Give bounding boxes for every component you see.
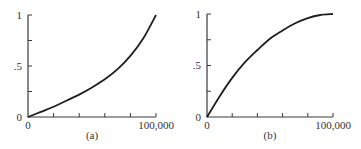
x-tick-label-0: 0 — [25, 119, 31, 131]
y-tick-label-0: 0 — [17, 111, 23, 123]
figure: 1 .5 0 0 100,000 (a) 1 .5 0 0 100,000 (b… — [0, 0, 361, 149]
x-tick-label-max: 100,000 — [315, 119, 351, 131]
y-tick-label-half: .5 — [193, 59, 202, 71]
y-tick-label-1: 1 — [17, 9, 23, 21]
panel-caption: (b) — [264, 129, 277, 142]
y-axis — [28, 15, 156, 117]
x-tick-label-max: 100,000 — [138, 119, 174, 131]
y-tick-label-half: .5 — [14, 60, 23, 72]
data-curve — [28, 15, 156, 117]
y-axis — [207, 14, 333, 117]
data-curve — [207, 14, 333, 117]
chart-panel-a: 1 .5 0 0 100,000 (a) — [14, 9, 175, 142]
panel-caption: (a) — [86, 129, 99, 142]
chart-panel-b: 1 .5 0 0 100,000 (b) — [193, 8, 352, 142]
y-tick-label-1: 1 — [196, 8, 202, 20]
y-tick-label-0: 0 — [196, 111, 202, 123]
x-tick-label-0: 0 — [204, 119, 210, 131]
